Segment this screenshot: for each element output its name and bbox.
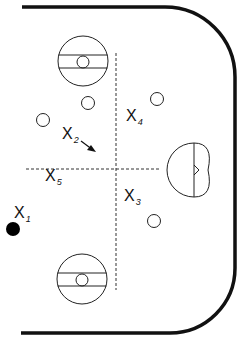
player-number: 5 bbox=[57, 177, 62, 187]
player-number: 2 bbox=[74, 135, 79, 145]
player-number: 3 bbox=[136, 197, 141, 207]
movement-arrow-icon bbox=[81, 141, 96, 152]
pylon bbox=[148, 215, 161, 228]
player-letter: X bbox=[14, 204, 25, 221]
puck bbox=[6, 222, 20, 236]
player-letter: X bbox=[126, 107, 137, 124]
player-letter: X bbox=[45, 167, 56, 184]
player-number: 1 bbox=[26, 214, 31, 224]
faceoff-circle-bottom bbox=[57, 254, 107, 304]
faceoff-circle-top bbox=[58, 36, 108, 86]
player-x5: X5 bbox=[45, 168, 62, 187]
player-x1: X1 bbox=[14, 205, 31, 224]
player-letter: X bbox=[124, 187, 135, 204]
pylon bbox=[151, 93, 164, 106]
player-letter: X bbox=[62, 125, 73, 142]
pylon bbox=[37, 114, 50, 127]
player-x3: X3 bbox=[124, 188, 141, 207]
pylon bbox=[82, 97, 95, 110]
goal-crease bbox=[167, 143, 209, 197]
player-x2: X2 bbox=[62, 126, 79, 145]
player-x4: X4 bbox=[126, 108, 143, 127]
player-number: 4 bbox=[138, 117, 143, 127]
hockey-rink-diagram bbox=[0, 0, 245, 341]
